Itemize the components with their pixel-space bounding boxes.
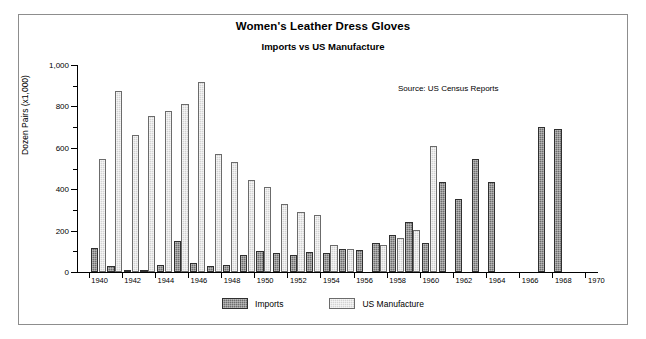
bar-imports-1948: [223, 265, 230, 272]
chart-figure: Women's Leather Dress Gloves Imports vs …: [0, 0, 646, 339]
bar-imports-1943: [140, 270, 147, 272]
y-axis-tick-label: 800: [56, 102, 69, 111]
bar-imports-1946: [190, 263, 197, 272]
x-axis-tick-label: 1952: [290, 276, 307, 285]
x-axis-tick-label: 1954: [323, 276, 340, 285]
bar-imports-1956: [356, 250, 363, 272]
bar-us-manufacture-1945: [181, 104, 188, 272]
legend-item-usmfr[interactable]: US Manufacture: [329, 298, 423, 309]
x-axis-tick-label: 1970: [588, 276, 605, 285]
chart-title: Women's Leather Dress Gloves: [0, 20, 646, 32]
bar-imports-1961: [439, 182, 446, 272]
x-axis-tick-label: 1958: [389, 276, 406, 285]
bar-us-manufacture-1949: [248, 180, 255, 272]
bar-imports-1958: [389, 235, 396, 272]
bar-imports-1944: [157, 265, 164, 272]
y-axis-tick-label: 1,000: [49, 61, 69, 70]
x-axis-tick: [320, 273, 321, 278]
bar-us-manufacture-1954: [330, 245, 337, 272]
bar-imports-1945: [174, 241, 181, 272]
bar-imports-1952: [290, 255, 297, 272]
plot-area: [77, 65, 597, 272]
x-axis-tick-label: 1960: [422, 276, 439, 285]
bar-imports-1951: [273, 253, 280, 272]
bar-us-manufacture-1947: [215, 154, 222, 272]
bar-us-manufacture-1960: [430, 146, 437, 272]
x-axis-tick-label: 1944: [157, 276, 174, 285]
legend-item-imports[interactable]: Imports: [222, 298, 283, 309]
bar-imports-1955: [339, 249, 346, 272]
x-axis-tick: [486, 273, 487, 278]
x-axis-tick: [387, 273, 388, 278]
x-axis-tick: [188, 273, 189, 278]
x-axis-tick-label: 1966: [522, 276, 539, 285]
bar-us-manufacture-1952: [297, 212, 304, 272]
bar-imports-1968: [554, 129, 561, 272]
legend-swatch-usmfr-icon: [329, 298, 355, 309]
legend-label: US Manufacture: [362, 299, 423, 309]
x-axis-tick-label: 1964: [489, 276, 506, 285]
bar-us-manufacture-1940: [99, 159, 106, 272]
x-axis-tick-label: 1940: [91, 276, 108, 285]
x-axis-tick: [354, 273, 355, 278]
bar-us-manufacture-1950: [264, 187, 271, 272]
bar-imports-1941: [107, 266, 114, 272]
bar-us-manufacture-1955: [347, 249, 354, 272]
bar-imports-1959: [405, 222, 412, 272]
y-axis-tick-label: 600: [56, 143, 69, 152]
x-axis-tick: [221, 273, 222, 278]
bar-us-manufacture-1942: [132, 135, 139, 272]
bar-imports-1940: [91, 248, 98, 272]
bar-us-manufacture-1944: [165, 111, 172, 272]
y-axis-title: Dozen Pairs (x1,000): [20, 35, 30, 195]
bar-imports-1942: [124, 270, 131, 272]
bar-us-manufacture-1957: [380, 245, 387, 272]
bar-us-manufacture-1943: [148, 116, 155, 272]
x-axis-tick-label: 1956: [356, 276, 373, 285]
bar-us-manufacture-1959: [413, 230, 420, 272]
bar-us-manufacture-1948: [231, 162, 238, 272]
x-axis-tick: [453, 273, 454, 278]
bar-us-manufacture-1958: [397, 238, 404, 272]
bar-imports-1963: [472, 159, 479, 272]
bar-imports-1960: [422, 243, 429, 272]
bar-imports-1957: [372, 243, 379, 272]
bar-us-manufacture-1946: [198, 82, 205, 272]
legend-swatch-imports-icon: [222, 298, 248, 309]
x-axis-tick: [287, 273, 288, 278]
bar-us-manufacture-1953: [314, 215, 321, 272]
y-axis-tick-label: 400: [56, 185, 69, 194]
x-axis-tick-label: 1942: [124, 276, 141, 285]
bar-imports-1950: [256, 251, 263, 272]
x-axis-tick-label: 1950: [257, 276, 274, 285]
x-axis-tick: [585, 273, 586, 278]
y-axis-tick-label: 0: [65, 268, 69, 277]
x-axis-tick: [155, 273, 156, 278]
x-axis-tick: [122, 273, 123, 278]
chart-subtitle: Imports vs US Manufacture: [0, 41, 646, 52]
x-axis-tick-label: 1946: [191, 276, 208, 285]
bar-us-manufacture-1951: [281, 204, 288, 272]
bar-imports-1964: [488, 182, 495, 272]
x-axis-tick: [519, 273, 520, 278]
x-axis-tick: [420, 273, 421, 278]
x-axis-tick-label: 1962: [456, 276, 473, 285]
x-axis-tick-label: 1948: [224, 276, 241, 285]
bar-imports-1947: [207, 266, 214, 272]
x-axis-tick: [552, 273, 553, 278]
chart-legend: ImportsUS Manufacture: [0, 298, 646, 309]
bar-imports-1954: [323, 253, 330, 272]
bar-imports-1949: [240, 255, 247, 272]
legend-label: Imports: [255, 299, 283, 309]
bar-imports-1962: [455, 199, 462, 272]
x-axis-tick: [254, 273, 255, 278]
y-axis-tick-label: 200: [56, 226, 69, 235]
x-axis-tick-label: 1968: [555, 276, 572, 285]
x-axis-tick: [89, 273, 90, 278]
bar-imports-1967: [538, 127, 545, 272]
bar-us-manufacture-1941: [115, 91, 122, 272]
bar-imports-1953: [306, 252, 313, 272]
